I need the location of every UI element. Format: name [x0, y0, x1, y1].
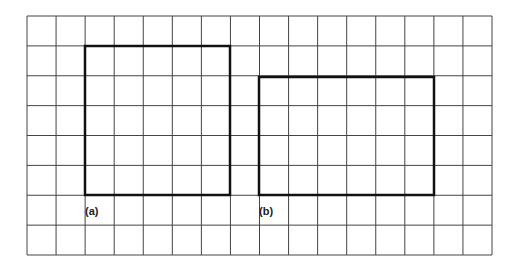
rectangle-a — [85, 46, 230, 195]
label-b: (b) — [259, 205, 273, 217]
grid-figure — [0, 0, 514, 264]
label-a: (a) — [85, 205, 98, 217]
